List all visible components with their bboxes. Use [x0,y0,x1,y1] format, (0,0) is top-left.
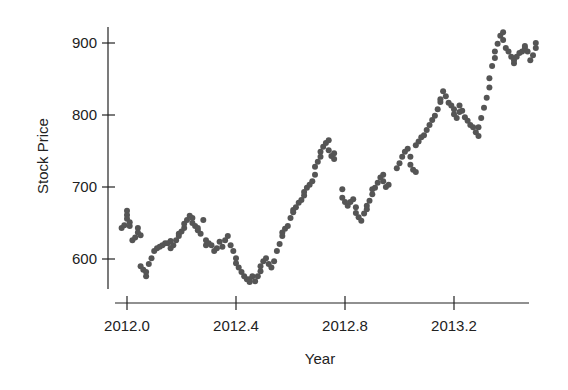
data-point [339,186,345,192]
data-point [255,273,261,279]
data-point [489,63,495,69]
data-point [271,258,277,264]
data-point [500,29,506,35]
x-tick-label: 2012.0 [104,317,150,334]
data-point [435,106,441,112]
data-point [486,75,492,81]
data-point [530,52,536,58]
data-point [421,132,427,138]
y-axis: 600700800900 [72,27,115,289]
data-points [119,29,539,285]
x-tick-label: 2012.4 [213,317,259,334]
y-tick-label: 600 [72,250,97,267]
data-point [506,49,512,55]
data-point [146,261,152,267]
data-point [495,41,501,47]
data-point [399,154,405,160]
data-point [470,124,476,130]
data-point [331,156,337,162]
data-point [427,122,433,128]
data-point [353,204,359,210]
data-point [326,137,332,143]
data-point [454,115,460,121]
data-point [135,225,141,231]
data-point [149,255,155,261]
data-point [277,241,283,247]
data-point [127,223,133,229]
data-point [331,150,337,156]
data-point [274,248,280,254]
data-point [143,269,149,275]
data-point [492,49,498,55]
data-point [358,218,364,224]
data-point [407,154,413,160]
data-point [443,93,449,99]
data-point [476,133,482,139]
stock-price-scatter-chart: 600700800900 2012.02012.42012.82013.2 St… [0,0,568,390]
y-axis-title: Stock Price [34,118,51,194]
data-point [386,182,392,188]
data-point [476,124,482,130]
data-point [500,37,506,43]
x-axis-title: Year [305,350,335,367]
data-point [263,255,269,261]
data-point [440,88,446,94]
data-point [285,223,291,229]
data-point [200,217,206,223]
data-point [309,178,315,184]
data-point [380,172,386,178]
x-axis: 2012.02012.42012.82013.2 [104,296,529,334]
data-point [527,57,533,63]
y-tick-label: 700 [72,178,97,195]
data-point [459,108,465,114]
data-point [397,160,403,166]
data-point [375,180,381,186]
data-point [525,49,531,55]
data-point [219,244,225,250]
data-point [228,242,234,248]
data-point [437,96,443,102]
data-point [217,239,223,245]
data-point [326,147,332,153]
y-tick-label: 800 [72,106,97,123]
data-point [312,172,318,178]
data-point [432,113,438,119]
data-point [350,196,356,202]
data-point [478,115,484,121]
data-point [380,178,386,184]
data-point [405,146,411,152]
data-point [230,248,236,254]
data-point [268,265,274,271]
data-point [492,55,498,61]
data-point [138,232,144,238]
data-point [121,222,127,228]
data-point [457,103,463,109]
data-point [413,169,419,175]
data-point [394,165,400,171]
data-point [481,105,487,111]
data-point [225,233,231,239]
data-point [484,95,490,101]
x-tick-label: 2013.2 [431,317,477,334]
x-tick-label: 2012.8 [322,317,368,334]
data-point [486,85,492,91]
y-tick-label: 900 [72,34,97,51]
data-point [288,215,294,221]
data-point [198,231,204,237]
data-point [367,198,373,204]
data-point [214,245,220,251]
data-point [533,40,539,46]
data-point [209,242,215,248]
data-point [451,106,457,112]
data-point [522,43,528,49]
